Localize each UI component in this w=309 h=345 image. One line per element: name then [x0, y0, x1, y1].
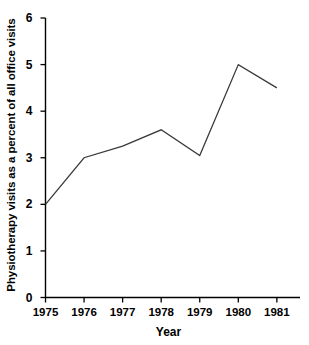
y-tick-label: 4 — [17, 105, 33, 117]
line-chart: Physiotherapy visits as a percent of all… — [0, 0, 309, 345]
plot-area — [0, 0, 309, 345]
x-tick-label: 1981 — [257, 306, 297, 318]
y-tick-label: 2 — [17, 198, 33, 210]
x-axis-label-text: Year — [156, 325, 181, 339]
x-tick-label: 1975 — [26, 306, 66, 318]
x-tick-label: 1979 — [180, 306, 220, 318]
x-axis-label: Year — [0, 325, 309, 339]
y-tick-label: 6 — [17, 12, 33, 24]
x-tick-label: 1978 — [141, 306, 181, 318]
x-tick-label: 1976 — [64, 306, 104, 318]
y-axis-label-text: Physiotherapy visits as a percent of all… — [5, 18, 17, 291]
x-axis-ticks — [46, 298, 277, 303]
y-axis-ticks — [41, 18, 46, 298]
data-series-line — [46, 65, 277, 205]
y-tick-label: 5 — [17, 59, 33, 71]
y-tick-label: 1 — [17, 245, 33, 257]
x-tick-label: 1980 — [218, 306, 258, 318]
y-tick-label: 0 — [17, 292, 33, 304]
x-tick-label: 1977 — [103, 306, 143, 318]
y-tick-label: 3 — [17, 152, 33, 164]
